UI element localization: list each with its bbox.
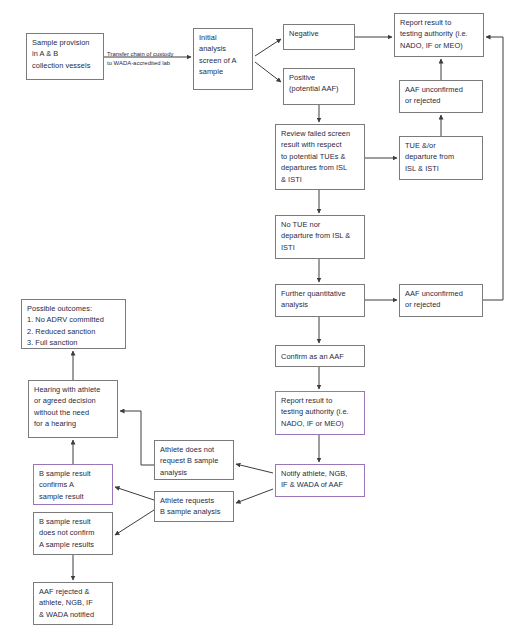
node-athlete-does-not-request[interactable]: Athlete does not request B sample analys…: [154, 440, 234, 480]
node-report-result-lower[interactable]: Report result to testing authority (i.e.…: [275, 391, 365, 435]
node-aaf-unconfirmed-top[interactable]: AAF unconfirmed or rejected: [399, 80, 483, 113]
node-further-quantitative[interactable]: Further quantitative analysis: [275, 284, 365, 317]
edge-initial-to-positive: [255, 62, 281, 82]
node-negative[interactable]: Negative: [283, 24, 355, 50]
node-initial-analysis[interactable]: Initial analysis screen of A sample: [193, 28, 253, 90]
node-possible-outcomes[interactable]: Possible outcomes: 1. No ADRV committed …: [21, 299, 126, 349]
edge-label-transfer-chain-of-custody: Transfer chain of custody to WADA-accred…: [107, 50, 191, 68]
node-athlete-requests[interactable]: Athlete requests B sample analysis: [154, 491, 234, 522]
flowchart-canvas: Sample provision in A & B collection ves…: [0, 0, 520, 639]
node-aaf-rejected-notified[interactable]: AAF rejected & athlete, NGB, IF & WADA n…: [33, 582, 113, 625]
edge-requests-to-b-confirms: [115, 487, 154, 500]
node-positive[interactable]: Positive (potential AAF): [283, 68, 355, 105]
node-confirm-aaf[interactable]: Confirm as an AAF: [275, 345, 365, 367]
edge-aafunconfirmed-lower-to-report: [483, 37, 503, 300]
node-no-tue-no-departure[interactable]: No TUE nor departure from ISL & ISTI: [275, 215, 365, 259]
edge-initial-to-negative: [255, 39, 281, 56]
node-tue-departure[interactable]: TUE &/or departure from ISL & ISTI: [399, 136, 483, 180]
node-aaf-unconfirmed-lower[interactable]: AAF unconfirmed or rejected: [399, 284, 483, 317]
edge-not-request-to-hearing: [120, 411, 154, 465]
node-review-failed-screen[interactable]: Review failed screen result with respect…: [275, 124, 365, 190]
edge-requests-to-b-not-confirm: [115, 510, 154, 535]
node-hearing-with-athlete[interactable]: Hearing with athlete or agreed decision …: [28, 380, 118, 438]
node-sample-provision[interactable]: Sample provision in A & B collection ves…: [26, 33, 104, 80]
node-b-sample-does-not-confirm[interactable]: B sample result does not confirm A sampl…: [33, 512, 113, 555]
node-b-sample-confirms-a[interactable]: B sample result confirms A sample result: [33, 464, 113, 505]
edge-notify-to-not-request: [236, 464, 273, 473]
node-notify-athlete[interactable]: Notify athlete, NGB, IF & WADA of AAF: [275, 464, 365, 497]
edge-notify-to-requests: [236, 489, 273, 503]
node-report-result-top[interactable]: Report result to testing authority (i.e.…: [394, 13, 484, 57]
